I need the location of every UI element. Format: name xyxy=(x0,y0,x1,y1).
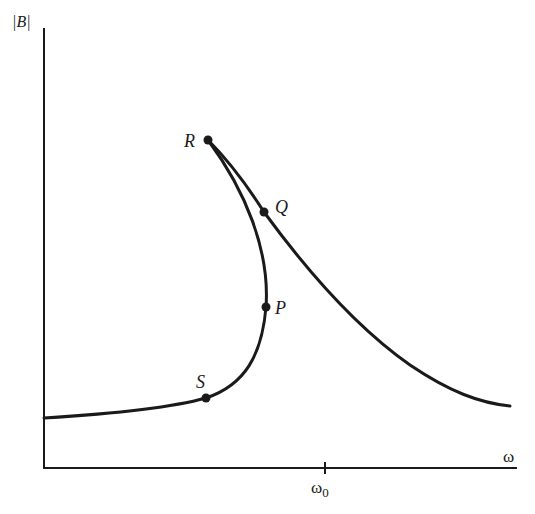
upper-branch-curve xyxy=(208,140,510,406)
point-s-label: S xyxy=(196,372,205,392)
point-r-marker xyxy=(204,136,213,145)
response-curve-diagram: R Q P S |B| ω ω0 xyxy=(0,0,535,514)
point-p-label: P xyxy=(274,298,286,318)
y-axis-label: |B| xyxy=(12,13,31,31)
x-axis-label: ω xyxy=(503,447,514,466)
point-s-marker xyxy=(202,394,211,403)
point-p-marker xyxy=(262,303,271,312)
point-r-label: R xyxy=(183,131,195,151)
point-q-label: Q xyxy=(275,197,288,217)
omega0-subscript: 0 xyxy=(322,485,329,500)
omega0-symbol: ω xyxy=(311,478,322,497)
omega0-tick-label: ω0 xyxy=(311,478,329,500)
lower-branch-curve xyxy=(44,140,266,418)
point-q-marker xyxy=(260,208,269,217)
